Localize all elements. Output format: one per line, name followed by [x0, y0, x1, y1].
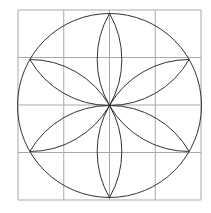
flower-diagram: [0, 0, 211, 213]
